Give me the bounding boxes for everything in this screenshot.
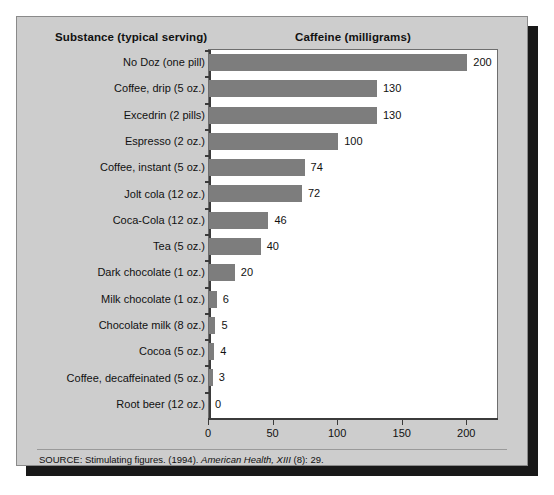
bar-row: 74 xyxy=(209,155,497,181)
bar-row: 3 xyxy=(209,365,497,391)
category-label: Dark chocolate (1 oz.) xyxy=(97,265,205,279)
bar xyxy=(209,291,217,308)
bar xyxy=(209,343,214,360)
bar-row: 130 xyxy=(209,103,497,129)
bar-row: 20 xyxy=(209,260,497,286)
bar-value-label: 20 xyxy=(241,264,253,281)
source-suffix: (8): 29. xyxy=(291,454,324,465)
bar-row: 40 xyxy=(209,234,497,260)
bar-value-label: 6 xyxy=(223,291,229,308)
y-axis-tick xyxy=(205,50,210,52)
chart-header: Substance (typical serving) Caffeine (mi… xyxy=(17,31,527,51)
source-prefix: SOURCE: Stimulating figures. (1994). xyxy=(39,454,201,465)
plot-area: 200130130100747246402065430 xyxy=(208,49,498,419)
bar-value-label: 200 xyxy=(473,54,491,71)
bar xyxy=(209,54,467,71)
x-axis-tick xyxy=(273,420,274,425)
caffeine-bar-chart-figure: Substance (typical serving) Caffeine (mi… xyxy=(0,0,554,495)
y-axis-tick xyxy=(205,76,210,78)
category-label: Cocoa (5 oz.) xyxy=(139,344,205,358)
bar xyxy=(209,317,215,334)
x-axis-tick xyxy=(337,420,338,425)
y-axis-tick xyxy=(205,339,210,341)
bar-value-label: 46 xyxy=(274,212,286,229)
bar xyxy=(209,107,377,124)
bar xyxy=(209,133,338,150)
x-axis-tick xyxy=(466,420,467,425)
bar-value-label: 3 xyxy=(219,369,225,386)
category-label: Coffee, instant (5 oz.) xyxy=(100,160,205,174)
bar-value-label: 130 xyxy=(383,80,401,97)
category-label-column: No Doz (one pill)Coffee, drip (5 oz.)Exc… xyxy=(17,49,205,419)
y-axis-tick xyxy=(205,260,210,262)
bar-value-label: 0 xyxy=(215,396,221,413)
category-label: Root beer (12 oz.) xyxy=(116,397,205,411)
bar xyxy=(209,212,268,229)
x-axis-tick-label: 50 xyxy=(266,427,278,439)
x-axis-tick xyxy=(208,420,209,425)
bar-value-label: 100 xyxy=(344,133,362,150)
category-label: Excedrin (2 pills) xyxy=(124,108,205,122)
bar-value-label: 130 xyxy=(383,107,401,124)
y-axis-tick xyxy=(205,155,210,157)
bars-container: 200130130100747246402065430 xyxy=(209,50,497,418)
y-axis-tick xyxy=(205,103,210,105)
y-axis-tick xyxy=(205,287,210,289)
bar xyxy=(209,369,213,386)
y-axis-tick xyxy=(205,234,210,236)
x-axis-tick-label: 200 xyxy=(457,427,475,439)
bar xyxy=(209,264,235,281)
category-label: Coffee, drip (5 oz.) xyxy=(114,81,205,95)
y-axis-tick xyxy=(205,181,210,183)
x-axis-tick-label: 100 xyxy=(328,427,346,439)
chart-card: Substance (typical serving) Caffeine (mi… xyxy=(16,16,528,466)
source-journal: American Health, XIII xyxy=(201,454,291,465)
bar-row: 5 xyxy=(209,313,497,339)
bar-row: 100 xyxy=(209,129,497,155)
bar-value-label: 5 xyxy=(221,317,227,334)
bar-row: 0 xyxy=(209,392,497,418)
bar-row: 6 xyxy=(209,287,497,313)
bar-row: 46 xyxy=(209,208,497,234)
category-label: No Doz (one pill) xyxy=(123,55,205,69)
x-axis-tick xyxy=(402,420,403,425)
y-axis-tick xyxy=(205,365,210,367)
x-axis-tick-label: 0 xyxy=(205,427,211,439)
bar-row: 72 xyxy=(209,181,497,207)
x-axis-line xyxy=(208,418,498,420)
category-label: Coffee, decaffeinated (5 oz.) xyxy=(67,371,205,385)
bar-value-label: 74 xyxy=(311,159,323,176)
bar xyxy=(209,238,261,255)
y-axis-tick xyxy=(205,392,210,394)
category-label: Jolt cola (12 oz.) xyxy=(124,187,205,201)
bar-row: 130 xyxy=(209,76,497,102)
bar xyxy=(209,159,305,176)
x-axis-tick-label: 150 xyxy=(393,427,411,439)
bar-row: 200 xyxy=(209,50,497,76)
y-axis-tick xyxy=(205,313,210,315)
y-axis-tick xyxy=(205,129,210,131)
y-axis-tick xyxy=(205,208,210,210)
bar-value-label: 40 xyxy=(267,238,279,255)
bar-row: 4 xyxy=(209,339,497,365)
substance-column-title: Substance (typical serving) xyxy=(55,31,207,43)
source-note: SOURCE: Stimulating figures. (1994). Ame… xyxy=(39,454,324,465)
category-label: Tea (5 oz.) xyxy=(153,239,205,253)
bar-value-label: 4 xyxy=(220,343,226,360)
category-label: Espresso (2 oz.) xyxy=(125,134,205,148)
bar xyxy=(209,185,302,202)
bar-value-label: 72 xyxy=(308,185,320,202)
bar xyxy=(209,80,377,97)
source-divider xyxy=(37,449,507,450)
category-label: Chocolate milk (8 oz.) xyxy=(99,318,205,332)
category-label: Milk chocolate (1 oz.) xyxy=(101,292,205,306)
caffeine-column-title: Caffeine (milligrams) xyxy=(295,31,411,43)
category-label: Coca-Cola (12 oz.) xyxy=(113,213,205,227)
